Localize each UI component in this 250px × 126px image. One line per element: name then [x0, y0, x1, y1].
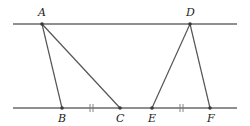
label-F: F — [206, 112, 215, 125]
point-E — [150, 106, 154, 110]
point-D — [188, 22, 192, 26]
point-B — [60, 106, 64, 110]
point-C — [118, 106, 122, 110]
label-A: A — [37, 6, 46, 19]
segment-AC — [42, 24, 120, 108]
label-E: E — [147, 112, 156, 125]
segment-AB — [42, 24, 62, 108]
geometry-diagram: A D B C E F — [0, 0, 250, 126]
point-F — [208, 106, 212, 110]
segment-DE — [152, 24, 190, 108]
point-A — [40, 22, 44, 26]
label-C: C — [116, 112, 125, 125]
label-B: B — [57, 112, 66, 125]
segment-DF — [190, 24, 210, 108]
label-D: D — [185, 6, 195, 19]
